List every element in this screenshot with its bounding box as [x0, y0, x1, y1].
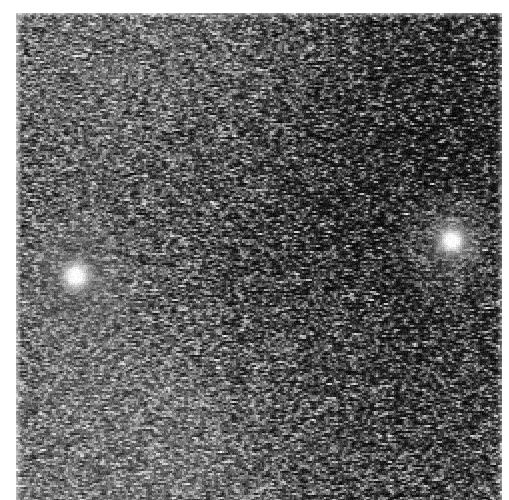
photographic-field-frame	[16, 13, 502, 500]
star-field-plate	[0, 0, 509, 500]
star-field-canvas	[16, 13, 502, 500]
